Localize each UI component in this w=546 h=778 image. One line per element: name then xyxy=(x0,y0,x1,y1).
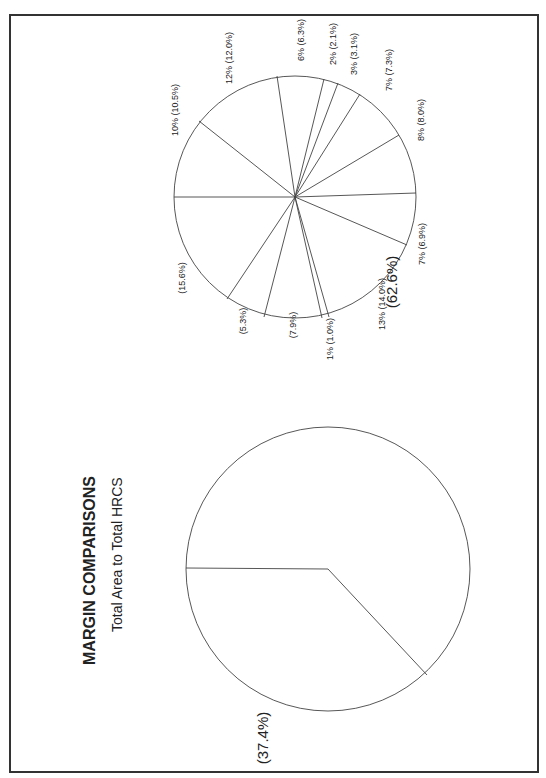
slice-label: 1% (1.0%) xyxy=(325,318,335,360)
chart-canvas: 10% (10.5%) 12% (12.0%) 6% (6.3%) 2% (2.… xyxy=(0,0,546,778)
chart-title: MARGIN COMPARISONS xyxy=(81,476,98,665)
large-pie-spoke xyxy=(328,569,427,675)
small-pie-spoke xyxy=(295,79,324,197)
large-pie-spoke xyxy=(186,568,328,569)
slice-label: (7.9%) xyxy=(288,312,298,339)
small-pie-spoke xyxy=(199,121,295,197)
slice-label: 6% (6.3%) xyxy=(296,19,306,61)
small-pie-spoke xyxy=(295,197,407,245)
small-pie-spoke xyxy=(264,197,295,317)
slice-label: 7% (6.9%) xyxy=(417,223,427,265)
slice-label: 8% (8.0%) xyxy=(416,99,426,141)
small-pie-spoke xyxy=(295,83,338,197)
slice-label: 12% (12.0%) xyxy=(224,32,234,84)
chart-subtitle: Total Area to Total HRCS xyxy=(109,477,125,632)
slice-label: 3% (3.1%) xyxy=(349,33,359,75)
small-pie-spoke xyxy=(295,197,329,317)
slice-label: 10% (10.5%) xyxy=(170,84,180,136)
slice-label: (5.3%) xyxy=(238,308,248,335)
slice-label: 2% (2.1%) xyxy=(328,23,338,65)
large-slice-label: (37.4%) xyxy=(254,712,271,765)
large-slice-label: (62.6%) xyxy=(383,256,400,309)
small-pie-spoke xyxy=(295,197,322,318)
small-pie-spoke xyxy=(227,197,295,299)
small-pie-spoke xyxy=(295,94,360,197)
large-pie xyxy=(186,427,470,711)
slice-label: (15.6%) xyxy=(177,262,187,294)
slice-label: 7% (7.3%) xyxy=(384,49,394,91)
small-pie-spoke xyxy=(277,76,295,197)
small-pie-spoke xyxy=(295,135,399,197)
small-pie-spoke xyxy=(295,193,416,197)
